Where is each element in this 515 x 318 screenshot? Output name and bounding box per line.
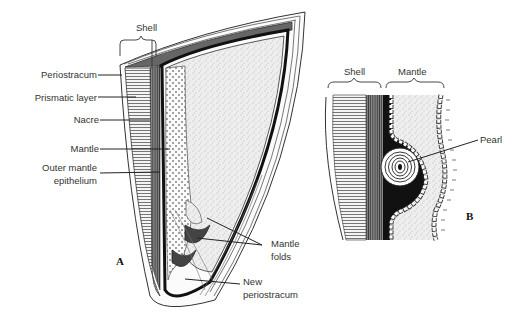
label-new-periostracum-line1: New [243,276,262,287]
panel-label-b: B [466,210,473,222]
label-outer-mantle-epithelium-line1: Outer mantle [42,162,97,173]
label-pearl: Pearl [480,134,502,145]
label-periostracum: Periostracum [41,69,97,80]
label-nacre: Nacre [74,114,99,125]
label-shell-a: Shell [136,22,157,33]
pearl-icon [381,148,419,186]
label-mantle-folds-line2: folds [271,251,291,262]
shell-cross-section-diagram [0,0,515,318]
label-shell-b: Shell [344,66,365,77]
label-mantle-b: Mantle [398,66,427,77]
label-outer-mantle-epithelium-line2: epithelium [54,175,97,186]
panel-label-a: A [116,255,124,267]
label-prismatic-layer: Prismatic layer [35,92,97,103]
panel-a-diagram [98,12,305,307]
panel-b-diagram [325,78,478,240]
label-mantle: Mantle [70,143,99,154]
label-mantle-folds-line1: Mantle [271,238,300,249]
label-new-periostracum-line2: periostracum [243,289,298,300]
